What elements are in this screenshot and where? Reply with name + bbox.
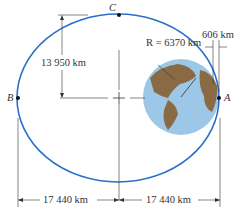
radius-label: R = 6370 km bbox=[146, 38, 201, 49]
orbit-diagram: C B A R = 6370 km 606 km 13 950 km 17 44… bbox=[0, 0, 240, 214]
point-a-label: A bbox=[224, 93, 230, 104]
left-half-label: 17 440 km bbox=[43, 195, 88, 206]
semi-minor-label: 13 950 km bbox=[41, 58, 86, 69]
point-c-label: C bbox=[109, 3, 116, 14]
right-half-label: 17 440 km bbox=[146, 195, 191, 206]
point-b-label: B bbox=[7, 93, 13, 104]
altitude-label: 606 km bbox=[202, 30, 234, 41]
